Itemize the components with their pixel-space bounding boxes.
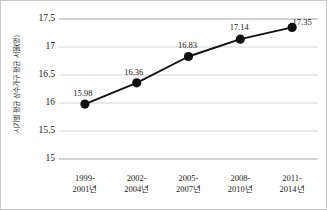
- y-tick-label: 17.5: [25, 14, 55, 24]
- x-tick-label-line1: 2008-: [230, 173, 250, 183]
- x-tick-label-line1: 2002-: [127, 173, 147, 183]
- x-tick-label-line1: 1999-: [75, 173, 95, 183]
- data-point-label: 17.14: [230, 23, 249, 32]
- y-axis-tick-labels: 17.51716.51615.515: [21, 1, 55, 166]
- chart-figure: 시기별 평균 상수가구 평균 서울(명) 17.51716.51615.515 …: [0, 0, 327, 210]
- data-point-label: 15.98: [73, 89, 92, 98]
- x-tick-label-line2: 2010년: [228, 184, 253, 195]
- x-tick-label: 1999-2001년: [72, 173, 97, 196]
- y-axis-title-text: 시기별 평균 상수가구 평균 서울(명): [11, 34, 21, 132]
- x-tick-label-line2: 2014년: [280, 184, 305, 195]
- x-tick-label: 2011-2014년: [280, 173, 305, 196]
- x-tick-label-line1: 2005-: [179, 173, 199, 183]
- data-point-marker: [80, 100, 89, 109]
- x-tick-label: 2005-2007년: [176, 173, 201, 196]
- y-tick-label: 16: [25, 98, 55, 108]
- plot-area: 15.9816.3616.8317.1417.35: [59, 19, 318, 159]
- x-tick-label: 2008-2010년: [228, 173, 253, 196]
- data-point-marker: [184, 52, 193, 61]
- data-point-marker: [132, 78, 141, 87]
- x-axis-tick-labels: 1999-2001년2002-2004년2005-2007년2008-2010년…: [59, 167, 318, 207]
- data-point-label: 16.83: [178, 40, 197, 49]
- x-tick-label-line2: 2007년: [176, 184, 201, 195]
- x-tick-label-line2: 2004년: [124, 184, 149, 195]
- y-tick-label: 16.5: [25, 70, 55, 80]
- y-tick-label: 17: [25, 42, 55, 52]
- x-tick-label: 2002-2004년: [124, 173, 149, 196]
- y-tick-label: 15: [25, 154, 55, 164]
- data-point-label: 16.36: [124, 67, 143, 76]
- y-tick-label: 15.5: [25, 126, 55, 136]
- x-tick-label-line2: 2001년: [72, 184, 97, 195]
- x-tick-label-line1: 2011-: [282, 173, 302, 183]
- data-point-marker: [236, 35, 245, 44]
- data-point-label: 17.35: [293, 18, 312, 27]
